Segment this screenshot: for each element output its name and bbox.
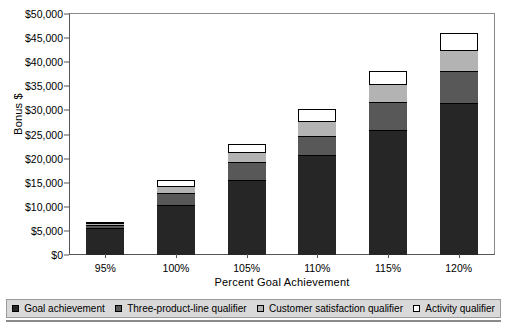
legend-item[interactable]: Goal achievement — [12, 303, 105, 314]
y-axis-tick-label: $15,000 — [25, 177, 63, 189]
legend-item[interactable]: Customer satisfaction qualifier — [257, 303, 403, 314]
x-axis-tick-mark — [388, 254, 389, 258]
stacked-bar[interactable] — [298, 109, 336, 255]
legend-label: Activity qualifier — [425, 303, 494, 314]
bar-segment[interactable] — [157, 193, 195, 205]
x-axis-tick-label: 95% — [95, 262, 116, 274]
legend-swatch-icon — [257, 305, 264, 312]
y-axis-tick-label: $40,000 — [25, 56, 63, 68]
y-axis-tick-labels: $0$5,000$10,000$15,000$20,000$25,000$30,… — [0, 0, 69, 256]
x-axis-tick-mark — [459, 254, 460, 258]
legend-label: Goal achievement — [24, 303, 105, 314]
bar-segment[interactable] — [369, 102, 407, 129]
y-axis-tick-label: $25,000 — [25, 129, 63, 141]
bar-segment[interactable] — [440, 103, 478, 255]
x-axis-tick-label: 105% — [233, 262, 260, 274]
stacked-bar[interactable] — [369, 71, 407, 255]
legend-item[interactable]: Activity qualifier — [413, 303, 494, 314]
bar-segment[interactable] — [228, 162, 266, 180]
bar-group — [211, 14, 282, 255]
stacked-bar[interactable] — [440, 33, 478, 255]
bar-segment[interactable] — [157, 186, 195, 193]
y-axis-tick-label: $5,000 — [31, 225, 63, 237]
bar-group — [353, 14, 424, 255]
x-axis-tick: 100% — [141, 258, 212, 274]
y-axis-tick-label: $0 — [51, 249, 63, 261]
x-axis-tick-mark — [247, 254, 248, 258]
bar-series-container — [70, 14, 494, 255]
x-axis-tick-label: 120% — [445, 262, 472, 274]
x-axis-tick: 110% — [282, 258, 353, 274]
legend-bottom-rule — [6, 320, 501, 322]
x-axis-tick: 115% — [353, 258, 424, 274]
stacked-bar[interactable] — [86, 222, 124, 255]
bar-group — [423, 14, 494, 255]
bar-segment[interactable] — [157, 205, 195, 255]
x-axis-tick-label: 115% — [375, 262, 401, 274]
bar-segment[interactable] — [440, 50, 478, 71]
x-axis-tick: 95% — [70, 258, 141, 274]
bonus-stacked-bar-chart: Bonus $ $0$5,000$10,000$15,000$20,000$25… — [0, 0, 507, 326]
x-axis-tick-labels: 95%100%105%110%115%120% — [70, 258, 494, 274]
x-axis-title: Percent Goal Achievement — [69, 276, 495, 288]
bar-segment[interactable] — [369, 130, 407, 255]
legend-item[interactable]: Three-product-line qualifier — [115, 303, 247, 314]
legend-label: Customer satisfaction qualifier — [269, 303, 403, 314]
bar-group — [70, 14, 141, 255]
bar-group — [282, 14, 353, 255]
bar-segment[interactable] — [440, 33, 478, 50]
bar-segment[interactable] — [228, 152, 266, 162]
x-axis-tick-mark — [317, 254, 318, 258]
chart-legend: Goal achievementThree-product-line quali… — [6, 299, 501, 318]
bar-segment[interactable] — [369, 84, 407, 102]
legend-swatch-icon — [115, 305, 122, 312]
bar-segment[interactable] — [440, 71, 478, 103]
stacked-bar[interactable] — [228, 144, 266, 255]
bar-group — [141, 14, 212, 255]
x-axis-tick-label: 100% — [163, 262, 190, 274]
bar-segment[interactable] — [298, 155, 336, 255]
bar-segment[interactable] — [228, 180, 266, 255]
x-axis-tick: 105% — [211, 258, 282, 274]
legend-swatch-icon — [12, 305, 19, 312]
y-axis-tick-label: $10,000 — [25, 201, 63, 213]
x-axis-tick-label: 110% — [304, 262, 330, 274]
y-axis-tick-label: $45,000 — [25, 32, 63, 44]
x-axis-tick: 120% — [423, 258, 494, 274]
y-axis-tick-label: $35,000 — [25, 80, 63, 92]
bar-segment[interactable] — [298, 109, 336, 121]
y-axis-tick-label: $30,000 — [25, 104, 63, 116]
bar-segment[interactable] — [369, 71, 407, 84]
bar-segment[interactable] — [298, 121, 336, 136]
y-axis-tick-label: $20,000 — [25, 153, 63, 165]
stacked-bar[interactable] — [157, 180, 195, 255]
legend-swatch-icon — [413, 305, 420, 312]
legend-label: Three-product-line qualifier — [127, 303, 247, 314]
bar-segment[interactable] — [298, 136, 336, 155]
x-axis-tick-mark — [176, 254, 177, 258]
y-axis-tick-label: $50,000 — [25, 8, 63, 20]
bar-segment[interactable] — [228, 144, 266, 152]
bar-segment[interactable] — [86, 228, 124, 255]
x-axis-tick-mark — [105, 254, 106, 258]
